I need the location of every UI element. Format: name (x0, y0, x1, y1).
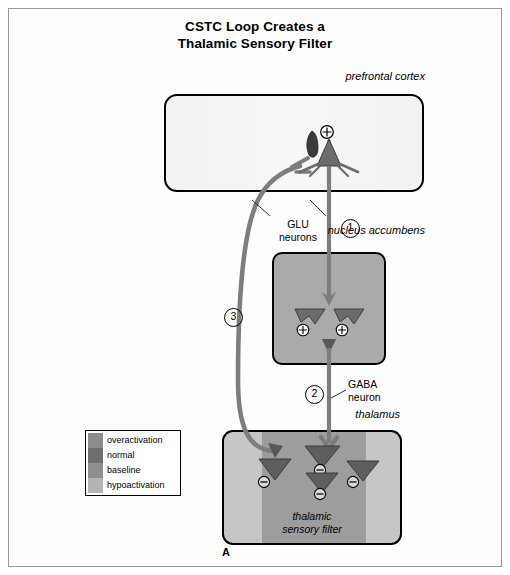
gaba-neuron-annotation: GABA neuron (348, 378, 408, 403)
nac-neuron-left (295, 309, 325, 324)
legend-label-baseline: baseline (107, 463, 178, 478)
thal-label-line-1: thalamus (355, 408, 400, 420)
panel-letter: A (222, 546, 230, 558)
legend-swatch-baseline (88, 463, 103, 478)
legend-label-normal: normal (107, 448, 178, 463)
legend-label-hypoactivation: hypoactivation (107, 478, 178, 493)
glu-line-1: GLU (272, 218, 324, 231)
nac-neuron-right (334, 309, 364, 324)
legend-label-column: overactivation normal baseline hypoactiv… (103, 433, 178, 493)
step-marker-1: 1 (341, 219, 360, 238)
legend-label-overactivation: overactivation (107, 433, 178, 448)
minus-circle-icon-thal-4 (314, 488, 325, 499)
step-marker-3: 3 (224, 308, 243, 327)
gaba-line-1: GABA (348, 378, 408, 391)
excitatory-synapse-bouton (307, 131, 318, 157)
legend-swatch-hypoactivation (88, 478, 103, 493)
gaba-leader-line (331, 390, 346, 398)
pfc-label-line-1: prefrontal (345, 70, 391, 82)
minus-circle-icon-thal-3 (347, 476, 358, 487)
prefrontal-cortex-label: prefrontal cortex (300, 70, 425, 83)
activity-legend: overactivation normal baseline hypoactiv… (85, 430, 181, 496)
step-marker-2: 2 (305, 385, 324, 404)
glu-neurons-annotation: GLU neurons (272, 218, 324, 243)
gaba-line-2: neuron (348, 391, 408, 404)
legend-swatch-column (88, 433, 103, 493)
plus-circle-icon-pfc (321, 126, 334, 139)
plus-circle-icon-nac-left (297, 324, 309, 336)
thalamus-label: thalamus (300, 408, 400, 421)
pathway-and-neuron-layer (0, 0, 510, 575)
minus-circle-icon-thal-2 (258, 476, 269, 487)
plus-circle-icon-nac-right (336, 324, 348, 336)
glu-leader-lines (252, 200, 326, 216)
glu-line-2: neurons (272, 231, 324, 244)
nac-label-line-2: accumbens (369, 224, 425, 236)
legend-swatch-normal (88, 448, 103, 463)
legend-swatch-overactivation (88, 433, 103, 448)
pfc-label-line-2: cortex (395, 70, 425, 82)
figure-canvas: CSTC Loop Creates a Thalamic Sensory Fil… (0, 0, 510, 575)
pyramidal-neuron-pfc (300, 131, 358, 194)
